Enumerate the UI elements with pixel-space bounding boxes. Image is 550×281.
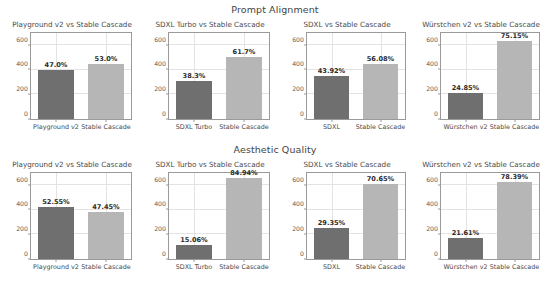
panel-title: SDXL vs Stable Cascade — [284, 20, 410, 29]
y-axis-tick-label: 400 — [16, 200, 28, 207]
plot-area: 020040060043.92%SDXL56.08%Stable Cascade — [306, 32, 406, 120]
y-axis-tick-label: 0 — [300, 249, 304, 256]
panel-title: SDXL Turbo vs Stable Cascade — [146, 20, 274, 29]
y-axis-tick-mark — [438, 69, 441, 70]
bar-value-label: 56.08% — [367, 55, 394, 63]
bar — [226, 57, 262, 119]
y-axis-tick-mark — [28, 93, 31, 94]
y-axis-tick-label: 0 — [162, 109, 166, 116]
plot-area: 020040060052.55%Playground v247.45%Stabl… — [30, 172, 132, 260]
panel-title: SDXL vs Stable Cascade — [284, 160, 410, 169]
panel-aesthetic-playground-v2: Playground v2 vs Stable Cascade 02004006… — [8, 160, 136, 278]
y-axis-tick-mark — [438, 93, 441, 94]
y-axis-tick-label: 600 — [292, 35, 304, 42]
x-axis-tick-label: Playground v2 — [33, 263, 79, 271]
gridline-horizontal — [31, 184, 131, 185]
x-axis-tick-label: SDXL — [323, 263, 340, 271]
bar — [497, 182, 532, 259]
bar — [38, 207, 74, 259]
y-axis-tick-mark — [438, 209, 441, 210]
gridline-horizontal — [307, 44, 405, 45]
y-axis-tick-mark — [166, 93, 169, 94]
y-axis-tick-label: 400 — [292, 60, 304, 67]
plot-area: 020040060024.85%Würstchen v275.15%Stable… — [440, 32, 540, 120]
bar — [176, 81, 212, 119]
bar — [363, 64, 398, 119]
bar — [314, 228, 349, 259]
y-axis-tick-mark — [304, 93, 307, 94]
bar-value-label: 70.65% — [367, 175, 394, 183]
y-axis-tick-mark — [438, 118, 441, 119]
bar-value-label: 84.94% — [230, 169, 257, 177]
panel-prompt-sdxl: SDXL vs Stable Cascade 020040060043.92%S… — [284, 20, 410, 138]
bar-value-label: 75.15% — [501, 32, 528, 40]
bar-value-label: 61.7% — [233, 48, 256, 56]
x-axis-tick-label: Playground v2 — [33, 123, 79, 131]
panel-aesthetic-sdxl: SDXL vs Stable Cascade 020040060029.35%S… — [284, 160, 410, 278]
y-axis-tick-mark — [166, 69, 169, 70]
y-axis-tick-label: 200 — [292, 224, 304, 231]
x-axis-tick-mark — [106, 259, 107, 262]
y-axis-tick-label: 0 — [434, 249, 438, 256]
bar — [88, 64, 124, 119]
panel-prompt-sdxl-turbo: SDXL Turbo vs Stable Cascade 02004006003… — [146, 20, 274, 138]
bar-value-label: 43.92% — [318, 67, 345, 75]
y-axis-tick-mark — [304, 233, 307, 234]
bar — [88, 212, 124, 259]
x-axis-tick-mark — [106, 119, 107, 122]
y-axis-tick-mark — [304, 258, 307, 259]
bar — [448, 93, 483, 119]
bar-value-label: 38.3% — [183, 72, 206, 80]
chart-row-aesthetic-quality: Aesthetic Quality Playground v2 vs Stabl… — [0, 140, 550, 280]
panel-aesthetic-sdxl-turbo: SDXL Turbo vs Stable Cascade 02004006001… — [146, 160, 274, 278]
x-axis-tick-mark — [331, 119, 332, 122]
y-axis-tick-label: 0 — [162, 249, 166, 256]
panel-prompt-wuerstchen-v2: Würstchen v2 vs Stable Cascade 020040060… — [418, 20, 544, 138]
x-axis-tick-label: Stable Cascade — [219, 263, 268, 271]
gridline-horizontal — [31, 44, 131, 45]
x-axis-tick-label: Würstchen v2 — [443, 263, 487, 271]
x-axis-tick-mark — [514, 259, 515, 262]
x-axis-tick-label: SDXL Turbo — [176, 123, 213, 131]
y-axis-tick-label: 0 — [300, 109, 304, 116]
x-axis-tick-label: SDXL — [323, 123, 340, 131]
panel-prompt-playground-v2: Playground v2 vs Stable Cascade 02004006… — [8, 20, 136, 138]
gridline-horizontal — [169, 44, 269, 45]
plot-area: 020040060029.35%SDXL70.65%Stable Cascade — [306, 172, 406, 260]
y-axis-tick-mark — [28, 184, 31, 185]
y-axis-tick-mark — [166, 209, 169, 210]
panel-title: SDXL Turbo vs Stable Cascade — [146, 160, 274, 169]
x-axis-tick-label: Stable Cascade — [81, 123, 130, 131]
bar-value-label: 52.55% — [42, 198, 69, 206]
x-axis-tick-label: SDXL Turbo — [176, 263, 213, 271]
x-axis-tick-label: Stable Cascade — [356, 263, 405, 271]
y-axis-tick-label: 600 — [154, 35, 166, 42]
plot-area: 020040060047.0%Playground v253.0%Stable … — [30, 32, 132, 120]
y-axis-tick-label: 400 — [426, 200, 438, 207]
y-axis-tick-label: 0 — [24, 109, 28, 116]
plot-area: 020040060015.06%SDXL Turbo84.94%Stable C… — [168, 172, 270, 260]
panel-title: Playground v2 vs Stable Cascade — [8, 160, 136, 169]
y-axis-tick-mark — [304, 184, 307, 185]
y-axis-tick-mark — [28, 44, 31, 45]
y-axis-tick-label: 600 — [426, 175, 438, 182]
y-axis-tick-mark — [166, 44, 169, 45]
plot-area: 020040060021.61%Würstchen v278.39%Stable… — [440, 172, 540, 260]
y-axis-tick-mark — [304, 209, 307, 210]
x-axis-tick-label: Stable Cascade — [490, 263, 539, 271]
y-axis-tick-mark — [304, 69, 307, 70]
y-axis-tick-mark — [438, 44, 441, 45]
bar — [176, 245, 212, 259]
y-axis-tick-label: 200 — [16, 84, 28, 91]
y-axis-tick-mark — [438, 184, 441, 185]
y-axis-tick-label: 400 — [154, 60, 166, 67]
y-axis-tick-label: 200 — [154, 224, 166, 231]
y-axis-tick-label: 200 — [292, 84, 304, 91]
x-axis-tick-label: Würstchen v2 — [443, 123, 487, 131]
bar — [226, 178, 262, 259]
x-axis-tick-mark — [465, 259, 466, 262]
figure-bar-chart-grid: Prompt Alignment Playground v2 vs Stable… — [0, 0, 550, 281]
chart-row-prompt-alignment: Prompt Alignment Playground v2 vs Stable… — [0, 0, 550, 140]
bar — [497, 41, 532, 119]
y-axis-tick-mark — [28, 258, 31, 259]
